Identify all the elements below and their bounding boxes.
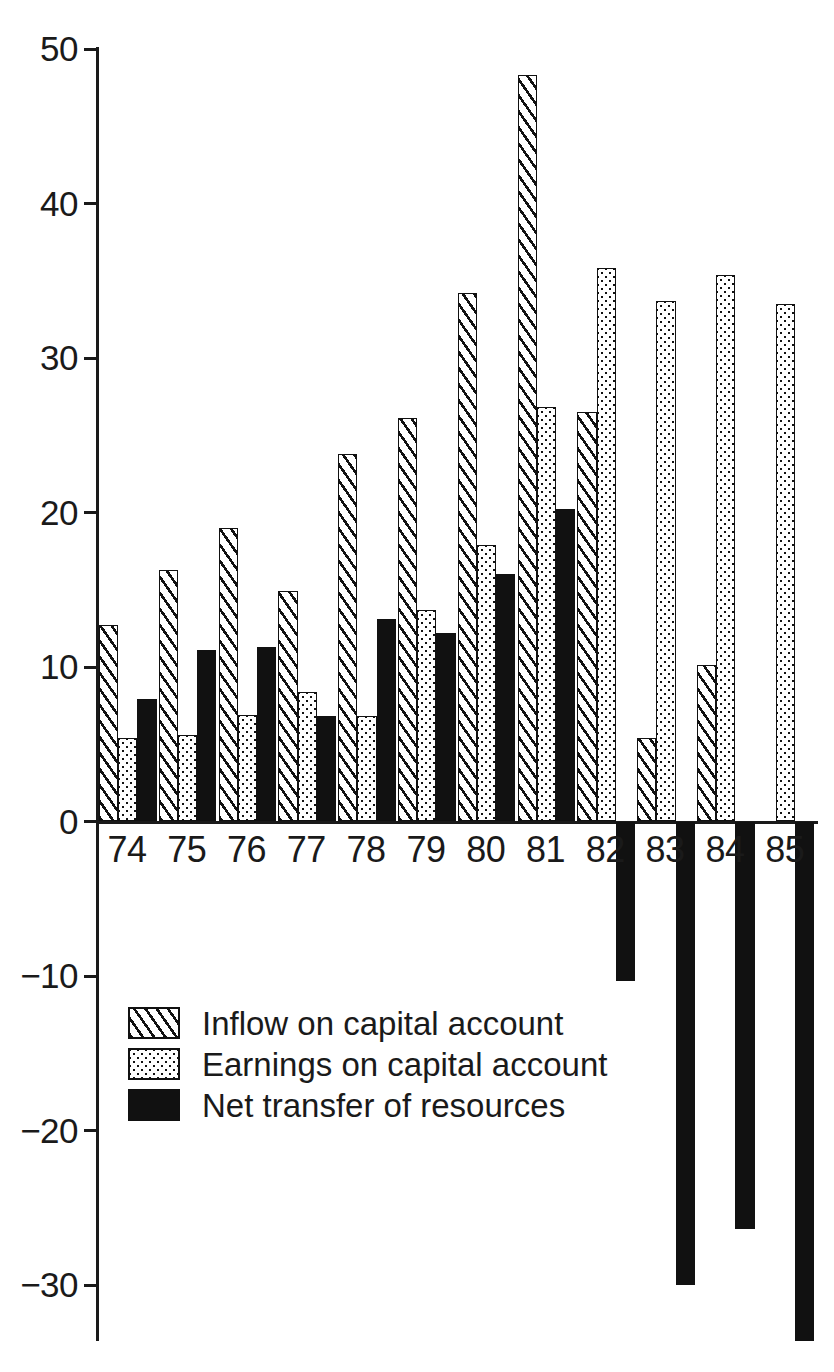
bar-79-dots — [417, 610, 436, 822]
bar-84-hatch — [697, 665, 716, 821]
y-tick-label: −30 — [8, 1267, 78, 1302]
bar-78-hatch — [338, 454, 357, 822]
x-axis-label-84: 84 — [695, 830, 755, 870]
bar-84-dots — [716, 275, 735, 822]
x-axis-label-83: 83 — [635, 830, 695, 870]
bar-81-hatch — [518, 75, 537, 821]
legend-label: Net transfer of resources — [202, 1089, 565, 1122]
bar-76-dots — [238, 715, 257, 822]
x-axis-label-74: 74 — [97, 830, 157, 870]
plot-area: 50403020100−10−20−30 7475767778798081828… — [0, 0, 834, 1372]
y-tick-mark — [84, 1129, 98, 1132]
bar-80-hatch — [458, 293, 477, 821]
legend-item: Net transfer of resources — [128, 1085, 607, 1125]
y-tick-label: 10 — [8, 649, 78, 684]
chart-legend: Inflow on capital accountEarnings on cap… — [128, 1003, 607, 1126]
y-tick-mark — [84, 202, 98, 205]
bar-77-solid — [317, 716, 336, 821]
y-tick-label: 20 — [8, 495, 78, 530]
bar-74-solid — [137, 699, 156, 821]
x-axis-label-78: 78 — [336, 830, 396, 870]
bar-74-dots — [118, 738, 137, 821]
bar-83-solid — [676, 822, 695, 1286]
bar-79-solid — [436, 633, 455, 821]
bar-82-dots — [597, 268, 616, 821]
bar-78-dots — [357, 716, 376, 821]
legend-label: Inflow on capital account — [202, 1007, 563, 1040]
legend-swatch-dots — [128, 1048, 180, 1080]
bar-80-solid — [496, 574, 515, 821]
bar-75-solid — [197, 650, 216, 821]
y-tick-label: 50 — [8, 31, 78, 66]
x-axis-label-80: 80 — [456, 830, 516, 870]
y-tick-mark — [84, 357, 98, 360]
bar-75-hatch — [159, 570, 178, 822]
y-tick-mark — [84, 820, 98, 823]
legend-label: Earnings on capital account — [202, 1048, 607, 1081]
x-axis-label-81: 81 — [516, 830, 576, 870]
bar-78-solid — [377, 619, 396, 821]
bar-81-solid — [556, 509, 575, 821]
x-axis-label-75: 75 — [157, 830, 217, 870]
x-axis-label-82: 82 — [575, 830, 635, 870]
bar-77-hatch — [278, 591, 297, 821]
legend-item: Inflow on capital account — [128, 1003, 607, 1043]
bar-79-hatch — [398, 418, 417, 821]
bar-82-hatch — [577, 412, 596, 821]
bar-76-solid — [257, 647, 276, 822]
legend-swatch-hatch — [128, 1007, 180, 1039]
y-tick-mark — [84, 666, 98, 669]
bar-80-dots — [477, 545, 496, 822]
bar-75-dots — [178, 735, 197, 822]
y-tick-label: 0 — [8, 804, 78, 839]
x-axis-label-77: 77 — [276, 830, 336, 870]
x-axis-label-76: 76 — [217, 830, 277, 870]
y-tick-label: 30 — [8, 340, 78, 375]
bar-81-dots — [537, 407, 556, 821]
y-tick-mark — [84, 975, 98, 978]
bar-83-dots — [656, 301, 675, 822]
y-tick-mark — [84, 1284, 98, 1287]
x-axis-label-85: 85 — [755, 830, 815, 870]
legend-swatch-solid — [128, 1089, 180, 1121]
y-tick-label: −10 — [8, 958, 78, 993]
bar-85-solid — [795, 822, 814, 1341]
bar-85-dots — [776, 304, 795, 822]
bar-77-dots — [298, 692, 317, 822]
bar-74-hatch — [99, 625, 118, 821]
y-tick-mark — [84, 511, 98, 514]
y-tick-mark — [84, 48, 98, 51]
legend-item: Earnings on capital account — [128, 1044, 607, 1084]
bar-84-solid — [735, 822, 754, 1230]
y-tick-label: −20 — [8, 1113, 78, 1148]
bar-83-hatch — [637, 738, 656, 821]
bar-76-hatch — [219, 528, 238, 822]
y-tick-label: 40 — [8, 186, 78, 221]
x-axis-label-79: 79 — [396, 830, 456, 870]
chart-figure: 50403020100−10−20−30 7475767778798081828… — [0, 0, 834, 1372]
